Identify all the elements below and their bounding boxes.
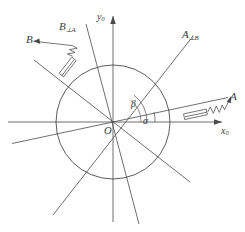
y-axis-arrowhead xyxy=(110,16,116,24)
vector-label-A-perp-B: A⊥B xyxy=(182,29,199,41)
origin-label: O xyxy=(104,126,112,137)
vector-line-A xyxy=(12,98,228,144)
angle-arc-alpha xyxy=(154,112,155,122)
vector-label-B: B xyxy=(26,34,33,45)
y-axis-label: y0 xyxy=(97,12,104,23)
vector-label-A: A xyxy=(230,91,237,102)
x-axis-arrowhead xyxy=(214,119,222,125)
angle-label-alpha: α xyxy=(143,117,148,127)
x-axis-label: x0 xyxy=(221,126,228,137)
vector-line-B-perp-A xyxy=(86,24,139,224)
vector-line-A-perp-B xyxy=(53,36,193,215)
figure-canvas: y0 x0 O A B A⊥B B⊥A α β xyxy=(0,0,245,232)
diagram-svg xyxy=(0,0,245,232)
spring-damper-A xyxy=(184,97,232,120)
angle-label-beta: β xyxy=(131,100,136,110)
spring-damper-B xyxy=(34,39,78,77)
vector-label-B-perp-A: B⊥A xyxy=(59,21,76,33)
